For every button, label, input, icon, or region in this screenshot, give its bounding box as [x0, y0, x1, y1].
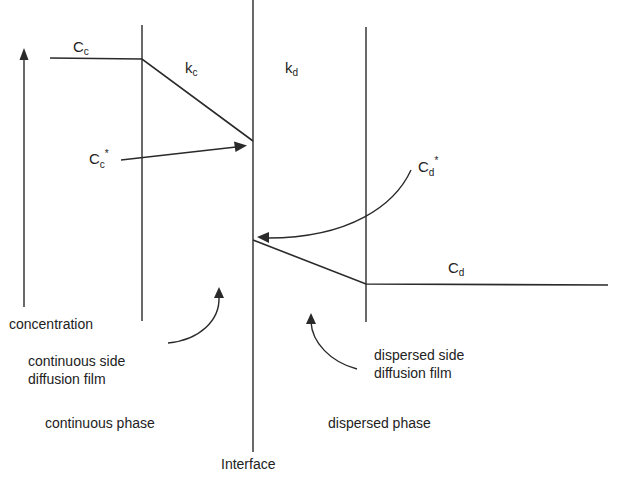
arrowhead-icon	[306, 313, 316, 324]
dispersed-film-label: dispersed side	[374, 347, 464, 363]
dispersed-concentration-profile	[253, 240, 608, 285]
continuous-film-label-line2: diffusion film	[28, 371, 106, 387]
axis-arrowhead-icon	[20, 48, 29, 60]
cc-label: Cc	[73, 38, 89, 57]
arrowhead-icon	[234, 142, 247, 153]
dispersed-film-pointer	[306, 313, 357, 369]
interface-label: Interface	[221, 456, 276, 472]
cc-star-label: Cc*	[89, 148, 109, 170]
arrowhead-icon	[257, 232, 269, 243]
continuous-concentration-profile	[50, 58, 253, 141]
dispersed-phase-label: dispersed phase	[328, 415, 431, 431]
cd-star-label: Cd*	[418, 155, 438, 178]
continuous-phase-label: continuous phase	[45, 415, 155, 431]
kc-label: kc	[185, 59, 198, 78]
kd-label: kd	[285, 59, 298, 78]
cd-star-pointer	[257, 170, 411, 243]
continuous-film-pointer	[168, 287, 224, 343]
continuous-film-label: continuous side	[28, 353, 126, 369]
concentration-label: concentration	[9, 316, 93, 332]
dispersed-film-label-line2: diffusion film	[374, 365, 452, 381]
two-film-diagram: Cc kc kd Cc* Cd* Cd concentration contin…	[0, 0, 618, 480]
arrowhead-icon	[214, 287, 224, 298]
cc-star-pointer	[121, 142, 247, 161]
cd-label: Cd	[448, 259, 464, 278]
concentration-axis	[20, 48, 29, 307]
